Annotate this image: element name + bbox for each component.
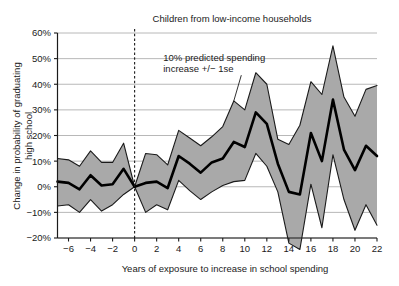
x-axis-tick-label: 2 — [154, 243, 159, 254]
x-axis-tick-label: −4 — [85, 243, 96, 254]
chart-svg: −20%−10%0%10%20%30%40%50%60% −6−4−202468… — [0, 0, 399, 286]
x-axis-tick-label: 12 — [262, 243, 273, 254]
x-axis-title: Years of exposure to increase in school … — [122, 263, 329, 274]
x-axis-tick-label: 16 — [306, 243, 317, 254]
annotation-line-1: 10% predicted spending — [163, 52, 265, 63]
y-axis-tick-label: −10% — [26, 207, 51, 218]
y-axis-tick-label: 30% — [32, 104, 52, 115]
y-axis-tick-label: 60% — [32, 27, 52, 38]
x-axis-tick-label: 6 — [198, 243, 203, 254]
y-axis-tick-label: −20% — [26, 232, 51, 243]
x-axis-tick-labels: −6−4−20246810121416182022 — [63, 243, 382, 254]
x-axis-tick-label: 10 — [240, 243, 251, 254]
x-axis-tick-label: −6 — [63, 243, 74, 254]
y-axis-title-line-1: Change in probability of graduating — [11, 62, 22, 209]
chart-figure: −20%−10%0%10%20%30%40%50%60% −6−4−202468… — [0, 0, 399, 286]
y-axis-tick-label: 50% — [32, 53, 52, 64]
annotation-line-2: increase +/− 1se — [163, 63, 233, 74]
x-axis-tick-label: 4 — [176, 243, 181, 254]
x-axis-tick-label: 0 — [132, 243, 137, 254]
x-axis-tick-label: 8 — [220, 243, 225, 254]
x-axis-tick-label: 14 — [284, 243, 295, 254]
y-axis-title-line-2: high school — [23, 112, 34, 160]
y-axis-tick-label: 40% — [32, 79, 52, 90]
x-axis-tick-label: 20 — [350, 243, 361, 254]
x-axis-tick-label: 22 — [372, 243, 383, 254]
chart-title: Children from low-income households — [153, 13, 312, 24]
y-axis-tick-label: 20% — [32, 130, 52, 141]
x-axis-tick-label: −2 — [107, 243, 118, 254]
y-axis-tick-label: 10% — [32, 156, 52, 167]
y-axis-tick-label: 0% — [37, 181, 51, 192]
x-axis-tick-label: 18 — [328, 243, 339, 254]
